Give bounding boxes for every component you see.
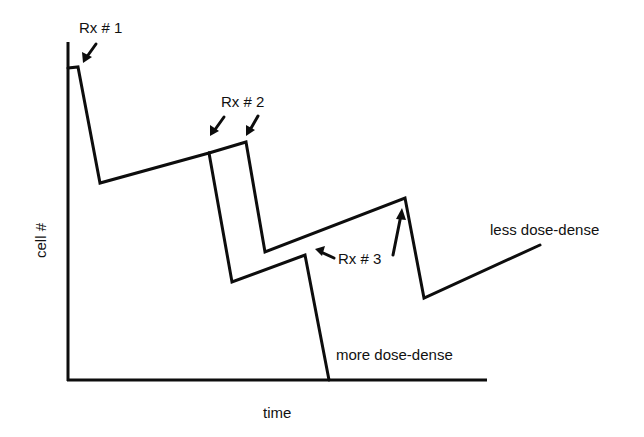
rx1-arrow-icon <box>82 44 96 63</box>
x-axis-label: time <box>263 404 291 421</box>
dose-density-diagram: Rx # 1 Rx # 2 Rx # 3 less dose-dense mor… <box>0 0 644 437</box>
rx1-label: Rx # 1 <box>79 19 122 36</box>
rx3-label: Rx # 3 <box>338 250 381 267</box>
shared-curve-segment <box>68 67 209 183</box>
less-dose-dense-label: less dose-dense <box>490 221 599 238</box>
rx3-up-arrow-icon <box>393 208 406 255</box>
more-dose-dense-label: more dose-dense <box>336 346 453 363</box>
rx2-label: Rx # 2 <box>221 93 264 110</box>
y-axis-label: cell # <box>32 222 49 258</box>
axes <box>67 42 487 381</box>
more-dose-dense-curve <box>209 153 329 380</box>
less-dose-dense-curve <box>209 142 540 298</box>
rx2-right-arrow-icon <box>246 116 258 136</box>
rx3-left-arrow-icon <box>315 246 334 258</box>
rx2-left-arrow-icon <box>210 117 224 136</box>
